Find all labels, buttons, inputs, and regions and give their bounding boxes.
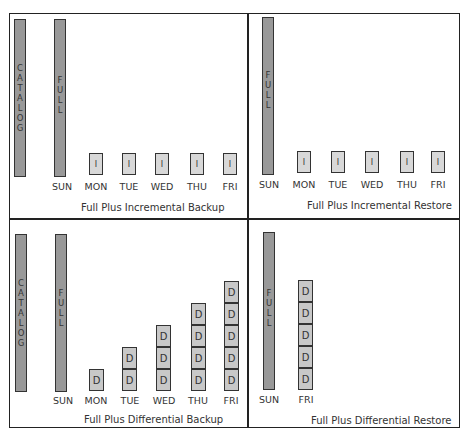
full-letter: F (266, 70, 271, 80)
differential-box-fri: D (298, 324, 313, 346)
day-label: FRI (418, 179, 458, 190)
differential-box-thu: D (191, 369, 206, 391)
day-label: FRI (211, 395, 251, 406)
differential-box-fri: D (224, 303, 239, 325)
full-letter: U (265, 80, 271, 90)
full-letter: U (266, 298, 272, 308)
caption-differential-restore: Full Plus Differential Restore (311, 415, 451, 426)
day-label: WED (352, 179, 392, 190)
incremental-box-mon: I (297, 151, 311, 173)
catalog-letter: A (18, 308, 24, 318)
day-label: SUN (249, 394, 289, 405)
incremental-box-tue: I (122, 153, 136, 175)
catalog-letter: O (17, 113, 24, 123)
catalog-letter: T (18, 298, 23, 308)
full-letter: L (59, 308, 64, 318)
differential-box-fri: D (298, 302, 313, 324)
full-restore-bar: F U L L (262, 17, 274, 175)
full-letter: L (58, 105, 63, 115)
catalog-letter: A (17, 73, 23, 83)
day-label: FRI (210, 181, 250, 192)
differential-box-fri: D (298, 368, 313, 390)
incremental-box-wed: I (365, 151, 379, 173)
differential-box-thu: D (191, 325, 206, 347)
differential-box-fri: D (298, 280, 313, 302)
catalog-bar: C A T A L O G (14, 19, 26, 177)
catalog-bar: C A T A L O G (15, 234, 27, 392)
differential-box-tue: D (122, 369, 137, 391)
full-letter: F (59, 288, 64, 298)
day-label: SUN (249, 179, 289, 190)
full-letter: L (266, 90, 271, 100)
catalog-letter: O (18, 328, 25, 338)
incremental-box-tue: I (331, 151, 345, 173)
full-letter: L (58, 95, 63, 105)
catalog-letter: L (19, 318, 24, 328)
full-restore-bar: F U L L (263, 232, 275, 390)
vertical-divider (247, 13, 249, 428)
differential-box-fri: D (224, 325, 239, 347)
full-letter: F (58, 75, 63, 85)
full-letter: U (58, 298, 64, 308)
differential-box-fri: D (224, 369, 239, 391)
catalog-letter: C (17, 63, 23, 73)
catalog-letter: T (17, 83, 22, 93)
differential-box-wed: D (156, 369, 171, 391)
differential-box-wed: D (156, 347, 171, 369)
incremental-box-fri: I (223, 153, 237, 175)
day-label: FRI (286, 394, 326, 405)
caption-incremental-backup: Full Plus Incremental Backup (81, 202, 225, 213)
caption-incremental-restore: Full Plus Incremental Restore (307, 200, 452, 211)
caption-differential-backup: Full Plus Differential Backup (84, 414, 223, 425)
full-letter: L (267, 318, 272, 328)
incremental-box-mon: I (89, 153, 103, 175)
catalog-letter: G (18, 338, 25, 348)
incremental-box-fri: I (431, 151, 445, 173)
differential-box-tue: D (122, 347, 137, 369)
incremental-box-wed: I (155, 153, 169, 175)
catalog-letter: L (18, 103, 23, 113)
full-letter: F (267, 288, 272, 298)
differential-box-thu: D (191, 303, 206, 325)
differential-box-wed: D (156, 325, 171, 347)
full-letter: L (59, 318, 64, 328)
incremental-box-thu: I (400, 151, 414, 173)
full-backup-bar: F U L L (55, 234, 67, 392)
catalog-letter: A (18, 288, 24, 298)
day-label: WED (142, 181, 182, 192)
full-letter: U (57, 85, 63, 95)
catalog-letter: A (17, 93, 23, 103)
differential-box-thu: D (191, 347, 206, 369)
full-letter: L (266, 100, 271, 110)
catalog-letter: C (18, 278, 24, 288)
full-letter: L (267, 308, 272, 318)
differential-box-mon: D (89, 369, 104, 391)
differential-box-fri: D (224, 347, 239, 369)
incremental-box-thu: I (190, 153, 204, 175)
horizontal-divider (9, 218, 460, 220)
full-backup-bar: F U L L (54, 19, 66, 177)
differential-box-fri: D (298, 346, 313, 368)
catalog-letter: G (17, 123, 24, 133)
differential-box-fri: D (224, 281, 239, 303)
